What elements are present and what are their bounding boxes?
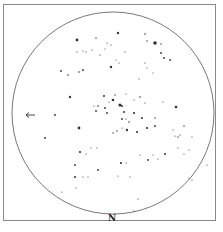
star	[129, 176, 130, 177]
star	[144, 62, 145, 63]
star	[139, 96, 141, 98]
arrow-left-icon	[26, 113, 35, 118]
star	[146, 127, 148, 129]
star	[152, 72, 153, 73]
star	[74, 164, 76, 166]
star	[82, 69, 84, 71]
star	[114, 94, 115, 95]
star	[44, 137, 46, 139]
star	[78, 127, 81, 130]
star	[147, 159, 149, 161]
star	[183, 125, 184, 126]
star	[96, 147, 97, 148]
star	[85, 153, 86, 154]
star	[106, 42, 107, 43]
star	[144, 102, 145, 103]
star	[123, 111, 125, 113]
star	[174, 135, 175, 136]
star	[120, 162, 122, 164]
star	[133, 112, 135, 114]
star	[104, 107, 106, 109]
star	[133, 210, 134, 211]
star	[90, 147, 91, 148]
star	[188, 149, 189, 150]
star	[144, 33, 146, 35]
star	[95, 110, 97, 112]
star	[76, 39, 79, 42]
star	[106, 112, 108, 114]
star	[177, 136, 178, 137]
star	[79, 151, 81, 153]
star	[160, 43, 161, 44]
star	[121, 127, 122, 128]
star	[163, 57, 165, 59]
star	[121, 118, 123, 120]
star	[110, 44, 111, 45]
star	[154, 117, 155, 118]
star	[87, 176, 88, 177]
star	[67, 74, 69, 76]
star	[61, 191, 62, 192]
star	[136, 131, 138, 133]
star	[110, 66, 112, 68]
star	[124, 51, 125, 52]
star	[74, 176, 76, 178]
star	[179, 134, 180, 135]
star	[160, 52, 162, 54]
star	[191, 136, 192, 137]
star	[118, 103, 121, 106]
star	[183, 153, 184, 154]
star	[125, 118, 126, 119]
star	[141, 117, 143, 119]
star	[118, 62, 119, 63]
star	[133, 99, 134, 100]
star	[146, 40, 147, 41]
star	[139, 154, 140, 155]
star	[153, 41, 157, 45]
star	[115, 59, 116, 60]
sky-circle	[12, 12, 214, 214]
star	[191, 179, 192, 180]
star	[117, 32, 119, 34]
star	[188, 177, 189, 178]
star	[125, 162, 126, 163]
star	[125, 93, 126, 94]
star	[82, 176, 83, 177]
star	[97, 169, 99, 171]
star	[138, 78, 139, 79]
star	[128, 121, 130, 123]
star	[75, 187, 76, 188]
star	[154, 125, 156, 127]
star	[104, 48, 105, 49]
star	[206, 164, 207, 165]
star	[91, 49, 92, 50]
star	[146, 67, 147, 68]
star-chart	[0, 0, 223, 232]
star	[69, 96, 71, 98]
star	[177, 147, 178, 148]
star-field	[44, 32, 208, 212]
star	[76, 51, 77, 52]
star	[99, 54, 100, 55]
north-label: N	[108, 213, 116, 223]
star	[157, 158, 158, 159]
star	[112, 99, 115, 102]
star	[112, 132, 113, 133]
star	[97, 105, 99, 107]
star	[82, 50, 83, 51]
star	[116, 130, 117, 131]
star	[108, 101, 109, 102]
star	[169, 59, 171, 61]
star	[78, 71, 80, 73]
star	[164, 153, 166, 155]
star	[117, 175, 118, 176]
star	[137, 198, 138, 199]
star	[85, 51, 86, 52]
star	[54, 114, 56, 116]
star	[152, 154, 153, 155]
star	[126, 129, 128, 131]
star	[95, 37, 96, 38]
star	[60, 70, 62, 72]
star	[162, 101, 163, 102]
star	[103, 95, 105, 97]
